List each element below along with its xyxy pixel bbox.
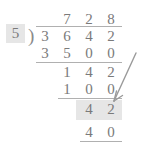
- second-subtraction-rule: [58, 98, 122, 99]
- first-subtrahend-digit: 5: [58, 45, 76, 62]
- first-remainder-digit: 1: [58, 64, 76, 81]
- second-remainder-digit: 2: [102, 101, 120, 118]
- first-subtraction-rule: [36, 62, 122, 63]
- first-remainder-digit: 4: [80, 64, 98, 81]
- third-subtrahend-digit: 4: [80, 124, 98, 141]
- quotient-digit: 7: [58, 11, 76, 28]
- third-subtraction-rule: [80, 141, 122, 142]
- quotient-digit: 8: [102, 11, 120, 28]
- second-remainder-digit: 4: [80, 101, 98, 118]
- third-subtrahend-digit: 0: [102, 124, 120, 141]
- dividend-digit: 6: [58, 28, 76, 45]
- quotient-digit: 2: [80, 11, 98, 28]
- dividend-digit: 2: [102, 28, 120, 45]
- long-division-figure: 5 ) 7 2 8 3 6 4 2 3 5 0 0 1 4 2 1 0 0 4 …: [0, 0, 142, 149]
- first-subtrahend-digit: 0: [80, 45, 98, 62]
- dividend-digit: 3: [36, 28, 54, 45]
- first-subtrahend-digit: 0: [102, 45, 120, 62]
- divisor-digit: 5: [6, 25, 25, 42]
- second-subtrahend-digit: 0: [102, 81, 120, 98]
- second-subtrahend-digit: 0: [80, 81, 98, 98]
- first-remainder-digit: 2: [102, 64, 120, 81]
- division-bracket-icon: ): [28, 26, 34, 45]
- dividend-digit: 4: [80, 28, 98, 45]
- first-subtrahend-digit: 3: [36, 45, 54, 62]
- second-subtrahend-digit: 1: [58, 81, 76, 98]
